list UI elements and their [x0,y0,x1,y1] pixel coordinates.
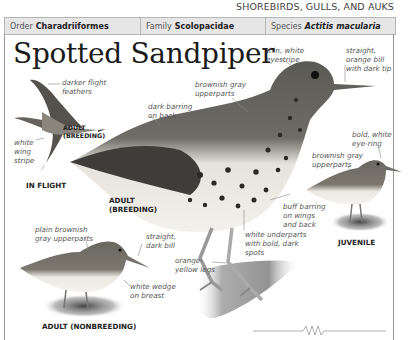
adult-nonbreeding-illustration [20,242,150,318]
flight-adult-caption: ADULT (BREEDING) [63,124,105,140]
nonbreeding-caption: ADULT (NONBREEDING) [42,322,136,331]
plain-upperparts-label: plain brownish gray upperparts [35,225,93,243]
eye-ring-label: bold, white eye-ring [352,130,392,148]
darker-flight-feathers-label: darker flight feathers [62,78,106,96]
buff-barring-label: buff barring on wings and back [283,202,326,229]
dark-barring-label: dark barring on back [148,102,192,120]
legs-label: orange- yellow legs [175,256,215,274]
in-flight-caption: IN FLIGHT [26,181,66,190]
eyestripe-label: thin, white eyestripe [266,46,304,64]
juvenile-upperparts-label: brownish gray upperparts [312,151,363,169]
juvenile-caption: JUVENILE [338,238,375,247]
underparts-label: white underparts with bold, dark spots [245,230,307,257]
bill-label: straight, orange bill with dark tip [346,46,391,73]
dark-bill-label: straight, dark bill [146,232,176,250]
white-wing-stripe-label: white wing stripe [14,138,35,165]
page-ornament [253,326,386,335]
white-wedge-label: white wedge on breast [130,282,176,300]
upperparts-label: brownish gray upperparts [195,80,246,98]
main-adult-caption: ADULT (BREEDING) [109,196,157,214]
